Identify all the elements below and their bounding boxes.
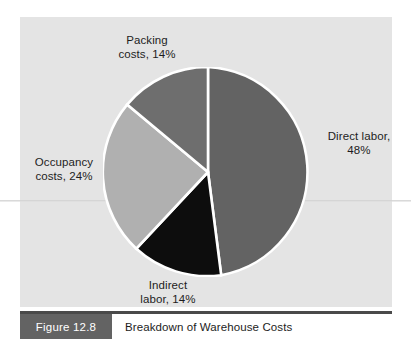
figure-caption-text: Breakdown of Warehouse Costs <box>112 314 292 339</box>
pie-label-indirect-labor: Indirect labor, 14% <box>112 278 224 306</box>
pie-label-packing-costs: Packing costs, 14% <box>93 33 201 61</box>
pie-label-occupancy-costs: Occupancy costs, 24% <box>12 155 116 183</box>
figure-caption: Figure 12.8 Breakdown of Warehouse Costs <box>20 314 411 339</box>
pie-chart <box>103 67 313 277</box>
pie-slice-direct-labor[interactable] <box>208 67 307 275</box>
pie-label-direct-labor: Direct labor, 48% <box>311 129 407 157</box>
figure-number-badge: Figure 12.8 <box>20 314 112 339</box>
